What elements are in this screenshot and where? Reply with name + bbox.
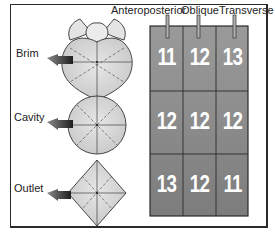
column-label-transverse: Transverse <box>219 4 274 16</box>
outlet-shape <box>68 160 126 226</box>
arrow-outlet-icon <box>47 189 71 201</box>
row-label-outlet: Outlet <box>14 182 43 194</box>
column-label-anteroposterior: Anteroposterior <box>111 4 186 16</box>
cell-cavity-oblique: 12 <box>187 107 213 135</box>
column-label-oblique: Oblique <box>181 4 219 16</box>
cell-cavity-transverse: 12 <box>220 107 246 135</box>
cell-brim-anteroposterior: 11 <box>154 43 180 71</box>
cell-brim-oblique: 12 <box>187 43 213 71</box>
row-label-brim: Brim <box>16 47 39 59</box>
row-label-cavity: Cavity <box>14 111 45 123</box>
cavity-shape <box>68 96 126 154</box>
cell-brim-transverse: 13 <box>220 43 246 71</box>
cell-outlet-anteroposterior: 13 <box>154 170 180 198</box>
cell-outlet-oblique: 12 <box>187 170 213 198</box>
cell-outlet-transverse: 11 <box>220 170 246 198</box>
cell-cavity-anteroposterior: 12 <box>154 107 180 135</box>
